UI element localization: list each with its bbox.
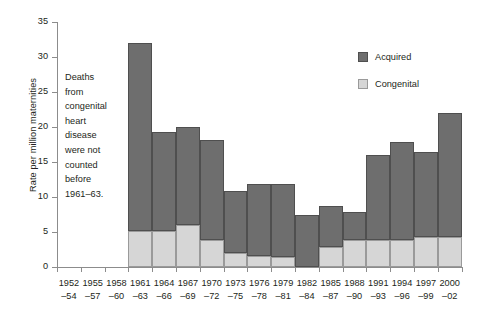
bar-segment-acquired xyxy=(152,132,176,231)
x-axis-label-line: –96 xyxy=(389,290,415,303)
x-axis-label-line: 1985 xyxy=(318,277,344,290)
bar-segment-acquired xyxy=(200,140,224,239)
y-tick-10 xyxy=(52,197,58,198)
y-tick-20 xyxy=(52,127,58,128)
x-tick-15 xyxy=(414,267,415,272)
bar-1961–63 xyxy=(128,43,152,267)
x-axis-label-1997–99: 1997–99 xyxy=(413,277,439,303)
annotation-line: heart xyxy=(65,114,127,129)
y-tick-label-30: 30 xyxy=(22,51,48,61)
bar-1994–96 xyxy=(390,142,414,267)
legend-label-acquired: Acquired xyxy=(375,52,411,62)
x-axis-label-line: –78 xyxy=(246,290,272,303)
x-axis-label-1973–75: 1973–75 xyxy=(223,277,249,303)
x-axis-label-line: 1994 xyxy=(389,277,415,290)
bar-2000–02 xyxy=(438,113,462,267)
y-axis-line xyxy=(57,22,58,267)
legend-label-congenital: Congenital xyxy=(375,79,419,89)
bar-1973–75 xyxy=(224,191,248,267)
bar-1979–81 xyxy=(271,184,295,267)
x-tick-9 xyxy=(271,267,272,272)
y-tick-label-0: 0 xyxy=(22,261,48,271)
x-axis-label-line: –63 xyxy=(127,290,153,303)
x-axis-label-1958–60: 1958–60 xyxy=(104,277,130,303)
bar-segment-acquired xyxy=(247,184,271,255)
x-axis-label-1970–72: 1970–72 xyxy=(199,277,225,303)
x-tick-0 xyxy=(57,267,58,272)
annotation-line: from xyxy=(65,85,127,100)
y-tick-35 xyxy=(52,22,58,23)
bar-segment-congenital xyxy=(366,240,390,267)
legend-item-acquired: Acquired xyxy=(358,52,419,62)
x-tick-14 xyxy=(390,267,391,272)
x-axis-label-line: 1991 xyxy=(365,277,391,290)
y-tick-label-35: 35 xyxy=(22,16,48,26)
x-axis-line xyxy=(57,267,462,268)
x-axis-label-1952–54: 1952–54 xyxy=(56,277,82,303)
x-axis-label-line: 1961 xyxy=(127,277,153,290)
y-tick-30 xyxy=(52,57,58,58)
bar-segment-acquired xyxy=(224,191,248,253)
y-tick-label-15: 15 xyxy=(22,156,48,166)
x-tick-5 xyxy=(176,267,177,272)
x-axis-label-line: –90 xyxy=(342,290,368,303)
x-axis-label-line: –57 xyxy=(80,290,106,303)
x-axis-label-line: –60 xyxy=(104,290,130,303)
x-axis-label-line: –75 xyxy=(223,290,249,303)
x-tick-2 xyxy=(105,267,106,272)
x-axis-label-line: –87 xyxy=(318,290,344,303)
bar-segment-congenital xyxy=(176,225,200,267)
x-tick-6 xyxy=(200,267,201,272)
bar-1991–93 xyxy=(366,155,390,267)
y-tick-label-20: 20 xyxy=(22,121,48,131)
bar-1982–84 xyxy=(295,215,319,268)
x-tick-10 xyxy=(295,267,296,272)
x-axis-label-line: 1976 xyxy=(246,277,272,290)
bar-segment-acquired xyxy=(176,127,200,225)
x-axis-label-1991–93: 1991–93 xyxy=(365,277,391,303)
legend-item-congenital: Congenital xyxy=(358,79,419,89)
y-tick-label-10: 10 xyxy=(22,191,48,201)
y-tick-label-25: 25 xyxy=(22,86,48,96)
chart-legend: Acquired Congenital xyxy=(358,52,419,106)
x-axis-label-1994–96: 1994–96 xyxy=(389,277,415,303)
y-tick-15 xyxy=(52,162,58,163)
x-tick-12 xyxy=(343,267,344,272)
annotation-line: Deaths xyxy=(65,70,127,85)
bar-1964–66 xyxy=(152,132,176,267)
x-tick-13 xyxy=(366,267,367,272)
y-tick-25 xyxy=(52,92,58,93)
bar-segment-congenital xyxy=(414,237,438,267)
annotation-line: congenital xyxy=(65,99,127,114)
x-axis-label-1967–69: 1967–69 xyxy=(175,277,201,303)
annotation-line: before xyxy=(65,172,127,187)
x-axis-label-1982–84: 1982–84 xyxy=(294,277,320,303)
x-axis-label-1985–87: 1985–87 xyxy=(318,277,344,303)
x-axis-label-line: 1964 xyxy=(151,277,177,290)
x-axis-label-line: 1967 xyxy=(175,277,201,290)
x-tick-16 xyxy=(438,267,439,272)
annotation-line: disease xyxy=(65,128,127,143)
bar-segment-acquired xyxy=(414,152,438,237)
bar-segment-congenital xyxy=(224,253,248,267)
y-tick-5 xyxy=(52,232,58,233)
x-axis-label-line: 1982 xyxy=(294,277,320,290)
bar-segment-congenital xyxy=(319,247,343,267)
stacked-bar-chart: Rate per million maternities 05101520253… xyxy=(0,0,478,325)
legend-swatch-acquired xyxy=(358,52,368,62)
x-axis-label-1988–90: 1988–90 xyxy=(342,277,368,303)
x-axis-label-line: 1979 xyxy=(270,277,296,290)
annotation-line: were not xyxy=(65,143,127,158)
x-axis-label-line: 1988 xyxy=(342,277,368,290)
x-tick-17 xyxy=(462,267,463,272)
x-axis-label-line: –81 xyxy=(270,290,296,303)
bar-segment-congenital xyxy=(247,256,271,267)
x-axis-label-line: –66 xyxy=(151,290,177,303)
x-tick-3 xyxy=(128,267,129,272)
x-tick-4 xyxy=(152,267,153,272)
bar-1976–78 xyxy=(247,184,271,267)
bar-segment-congenital xyxy=(200,240,224,267)
x-tick-7 xyxy=(224,267,225,272)
x-axis-label-line: –69 xyxy=(175,290,201,303)
x-axis-label-line: 1955 xyxy=(80,277,106,290)
